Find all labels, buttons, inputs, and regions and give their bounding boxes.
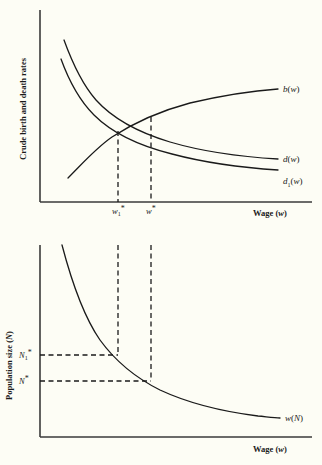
lower-x-axis-title-end: ) [284,444,287,454]
curve-label-w-of-N: w(N) [285,413,303,423]
upper-x-axis-title: Wage (w) [253,208,287,218]
tick-w-star: * [152,204,156,213]
tick-w1-star: * [121,204,125,213]
tick-N1-star: * [28,348,32,357]
tick-N-star: * [25,374,29,383]
label-d-arg-close: ) [297,154,300,164]
label-d1-arg-close: ) [300,176,303,186]
curve-b-of-w [68,89,278,178]
two-panel-economics-diagram: Crude birth and death rates Wage (w) w1*… [0,0,322,465]
label-b-arg-close: ) [297,84,300,94]
lower-tick-label-N-star: N* [18,374,29,386]
upper-panel: Crude birth and death rates Wage (w) w1*… [18,10,312,218]
curve-label-b-of-w: b(w) [283,84,300,94]
lower-tick-label-N1-star: N1* [18,348,32,361]
lower-panel: Population size (N) Wage (w) N1* N* w(N) [4,245,312,454]
label-wN-arg-close: ) [300,413,303,423]
lower-y-axis-title: Population size (N) [4,331,14,400]
curve-d1-of-w [61,59,278,170]
upper-y-axis-title: Crude birth and death rates [18,57,28,160]
upper-tick-label-w-star: w* [146,204,156,216]
upper-tick-label-w1-star: w1* [112,204,125,217]
lower-y-axis-title-main: Population size ( [4,340,14,400]
lower-y-axis-title-end: ) [4,331,14,334]
lower-x-axis-title: Wage (w) [253,444,287,454]
lower-x-axis-title-main: Wage ( [253,444,278,454]
curve-w-of-N [62,245,280,418]
curve-label-d-of-w: d(w) [283,154,300,164]
curve-label-d1-of-w: d1(w) [283,176,303,188]
upper-x-axis-title-end: ) [284,208,287,218]
upper-x-axis-title-main: Wage ( [253,208,278,218]
curve-d-of-w [64,40,278,159]
